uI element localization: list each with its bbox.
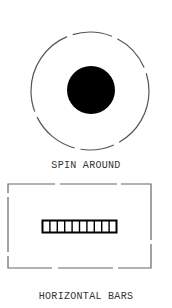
spin-around-label: SPIN AROUND xyxy=(0,160,172,171)
filled-disk xyxy=(67,66,115,114)
illustration-canvas xyxy=(0,0,172,308)
spin-around-icon xyxy=(31,32,149,150)
segmented-bar xyxy=(43,221,117,233)
horizontal-bars-label: HORIZONTAL BARS xyxy=(0,291,172,302)
rect-edge xyxy=(8,184,55,193)
horizontal-bars-icon xyxy=(8,184,151,268)
